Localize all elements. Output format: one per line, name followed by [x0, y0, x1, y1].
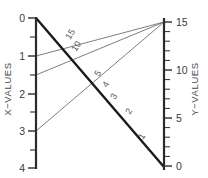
- left-axis-title: X−VALUES: [2, 62, 13, 115]
- left-tick-label-0: 0: [19, 12, 25, 24]
- nomogram-figure: 0 1 2 3 4 X−VALUES 15 10 5 0 Y−VALUES: [0, 0, 208, 178]
- right-tick-label-5: 5: [176, 112, 182, 124]
- right-tick-label-15: 15: [176, 16, 188, 28]
- right-tick-label-10: 10: [176, 64, 188, 76]
- right-axis-title: Y−VALUES: [189, 62, 200, 115]
- right-tick-label-0: 0: [176, 160, 182, 172]
- left-tick-label-3: 3: [19, 125, 25, 137]
- left-tick-label-1: 1: [19, 50, 25, 62]
- left-tick-label-4: 4: [19, 162, 25, 174]
- left-tick-label-2: 2: [19, 88, 25, 100]
